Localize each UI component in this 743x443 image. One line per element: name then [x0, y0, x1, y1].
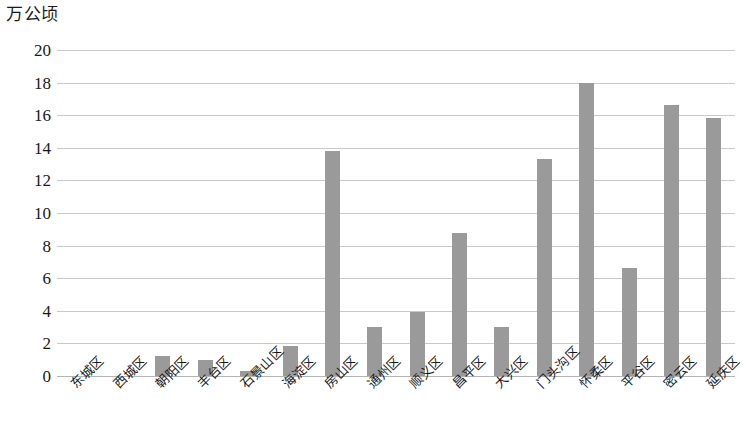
x-axis: 东城区西城区朝阳区丰台区石景山区海淀区房山区通州区顺义区昌平区大兴区门头沟区怀柔… [57, 377, 735, 443]
bar [325, 151, 340, 376]
y-axis-tick-label: 18 [5, 75, 51, 92]
bar [452, 233, 467, 376]
y-axis-tick-label: 6 [5, 270, 51, 287]
y-axis: 20181614121086420 [0, 50, 51, 376]
y-axis-tick-label: 4 [5, 303, 51, 320]
y-axis-tick-label: 16 [5, 107, 51, 124]
y-axis-tick-label: 12 [5, 172, 51, 189]
bar [622, 268, 637, 376]
y-axis-tick-label: 14 [5, 140, 51, 157]
y-axis-tick-label: 20 [5, 42, 51, 59]
bar [537, 159, 552, 376]
bar-chart: 万公顷 20181614121086420 东城区西城区朝阳区丰台区石景山区海淀… [0, 0, 743, 443]
y-axis-tick-label: 8 [5, 238, 51, 255]
bar [664, 105, 679, 376]
bar [706, 118, 721, 376]
bars-layer [57, 50, 735, 376]
y-axis-tick-label: 10 [5, 205, 51, 222]
y-axis-tick-label: 2 [5, 335, 51, 352]
y-axis-unit-label: 万公顷 [6, 4, 59, 25]
bar [579, 83, 594, 376]
y-axis-tick-label: 0 [5, 368, 51, 385]
